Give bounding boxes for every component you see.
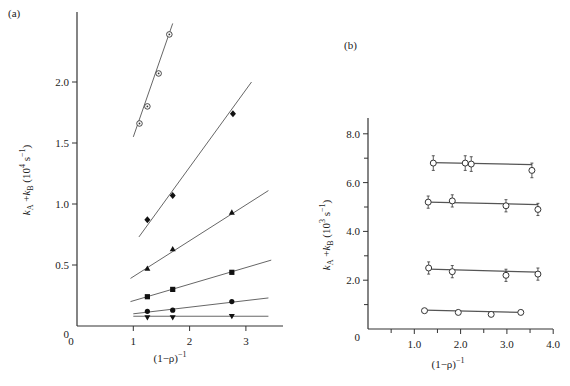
series-triangle-up bbox=[130, 191, 268, 279]
y-tick-label: 2.0 bbox=[346, 274, 360, 286]
x-tick-label: 3 bbox=[243, 335, 249, 347]
x-tick-label: 3.0 bbox=[500, 338, 514, 350]
panel-label: (a) bbox=[8, 7, 21, 20]
series-series-1 bbox=[430, 156, 535, 178]
fit-line bbox=[139, 82, 252, 237]
y-tick-label: 8.0 bbox=[346, 128, 360, 140]
panel-label: (b) bbox=[344, 39, 357, 52]
y-tick-label: 1.0 bbox=[55, 198, 69, 210]
point-dot bbox=[158, 73, 160, 75]
data-point bbox=[421, 308, 427, 314]
y-axis-label: kA +kB (104 s−1) bbox=[18, 144, 35, 215]
x-tick-label: 1.0 bbox=[407, 338, 421, 350]
series-series-2 bbox=[425, 195, 541, 216]
series-triangle-down bbox=[133, 314, 268, 320]
data-point bbox=[518, 309, 524, 315]
data-point bbox=[488, 311, 494, 317]
series-dotted-circle bbox=[133, 23, 172, 136]
data-point bbox=[430, 160, 436, 166]
data-point bbox=[170, 246, 176, 251]
data-point bbox=[145, 294, 150, 299]
data-point bbox=[535, 206, 541, 212]
series-series-4 bbox=[421, 308, 523, 318]
fit-line bbox=[133, 23, 172, 136]
fit-line bbox=[130, 260, 271, 301]
data-point bbox=[462, 160, 468, 166]
x-tick-label: 1 bbox=[131, 335, 137, 347]
data-point bbox=[144, 315, 150, 320]
data-point bbox=[503, 203, 509, 209]
x-tick-label: 4.0 bbox=[546, 338, 560, 350]
data-point bbox=[170, 315, 176, 320]
data-point bbox=[170, 308, 175, 313]
series-diamond bbox=[139, 82, 252, 237]
point-dot bbox=[139, 123, 141, 125]
fit-line bbox=[428, 202, 538, 204]
y-axis-label: kA +kB (103 s−1) bbox=[318, 199, 335, 270]
data-point bbox=[449, 198, 455, 204]
figure-caption-cutoff bbox=[8, 378, 564, 386]
data-point bbox=[425, 199, 431, 205]
data-point bbox=[449, 269, 455, 275]
data-point bbox=[503, 272, 509, 278]
x-axis-label: (1−ρ)−1 bbox=[431, 356, 464, 371]
data-point bbox=[455, 309, 461, 315]
data-point bbox=[230, 110, 236, 117]
data-point bbox=[529, 167, 535, 173]
data-point bbox=[229, 299, 234, 304]
y-tick-label: 2.0 bbox=[55, 76, 69, 88]
fit-line bbox=[133, 298, 268, 314]
fit-line bbox=[424, 310, 520, 312]
data-point bbox=[426, 265, 432, 271]
series-square bbox=[130, 260, 271, 301]
data-point bbox=[535, 271, 541, 277]
series-filled-circle bbox=[133, 298, 268, 314]
figure: (a)00.51.01.52.00123(1−ρ)−1kA +kB (104 s… bbox=[0, 0, 570, 386]
point-dot bbox=[146, 106, 148, 108]
y-tick-label: 1.5 bbox=[55, 137, 69, 149]
y-tick-label: 6.0 bbox=[346, 177, 360, 189]
y-tick-label: 0 bbox=[355, 331, 361, 343]
data-point bbox=[145, 309, 150, 314]
x-tick-label: 0 bbox=[68, 335, 74, 347]
fit-line bbox=[429, 269, 538, 272]
y-tick-label: 4.0 bbox=[346, 225, 360, 237]
fit-line bbox=[433, 163, 532, 165]
panel-b: (b)02.04.06.08.01.02.03.04.0(1−ρ)−1kA +k… bbox=[318, 39, 561, 371]
x-axis-label: (1−ρ)−1 bbox=[153, 350, 186, 365]
panel-a: (a)00.51.01.52.00123(1−ρ)−1kA +kB (104 s… bbox=[8, 7, 283, 365]
data-point bbox=[170, 287, 175, 292]
x-tick-label: 2 bbox=[187, 335, 193, 347]
point-dot bbox=[168, 34, 170, 36]
y-tick-label: 0.5 bbox=[55, 259, 69, 271]
data-point bbox=[229, 270, 234, 275]
series-series-3 bbox=[426, 262, 541, 282]
fit-line bbox=[130, 191, 268, 279]
data-point bbox=[468, 161, 474, 167]
x-tick-label: 2.0 bbox=[454, 338, 468, 350]
